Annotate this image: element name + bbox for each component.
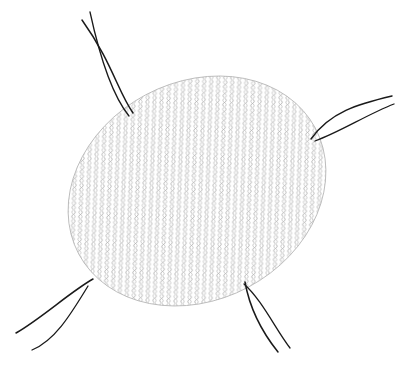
string-top-right: [311, 96, 394, 141]
string-bottom-right: [244, 282, 290, 352]
string-bottom-left: [16, 279, 93, 350]
mesh-pad-illustration: [0, 0, 409, 370]
string-top-left: [82, 12, 133, 116]
